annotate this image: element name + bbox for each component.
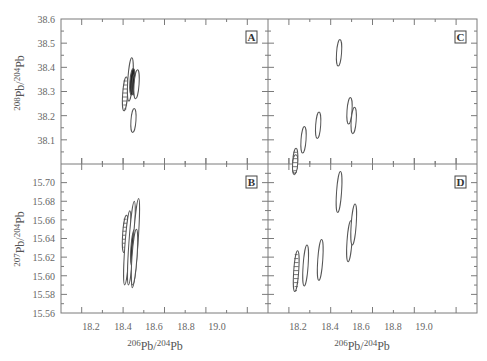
y-tick-label: 38.4 xyxy=(38,62,56,73)
y-tick-label: 15.64 xyxy=(33,233,56,244)
x-tick-label: 18.2 xyxy=(289,321,307,332)
y-tick-label: 38.2 xyxy=(38,111,56,122)
y-tick-label: 15.66 xyxy=(33,215,56,226)
y-axis-title-bottom: 207Pb/204Pb xyxy=(12,211,27,267)
svg-text:B: B xyxy=(248,176,256,188)
y-tick-label: 38.1 xyxy=(38,135,56,146)
svg-text:D: D xyxy=(457,176,465,188)
x-tick-label: 19.0 xyxy=(208,321,226,332)
panel-label-c: C xyxy=(455,31,466,43)
panel-label-b: B xyxy=(246,176,257,188)
y-tick-label: 15.60 xyxy=(33,271,56,282)
x-tick-label: 18.4 xyxy=(114,321,132,332)
x-tick-label: 18.8 xyxy=(177,321,195,332)
error-ellipse xyxy=(315,112,322,139)
x-tick-label: 18.4 xyxy=(321,321,339,332)
x-tick-label: 19.0 xyxy=(415,321,433,332)
panel-label-a: A xyxy=(246,31,257,43)
pb-isotope-chart: ACBD 38.6 38.5 38.4 38.3 38.2 38.1 15.70… xyxy=(0,0,487,361)
error-ellipse xyxy=(300,126,307,153)
x-tick-label: 18.2 xyxy=(82,321,100,332)
panel-label-d: D xyxy=(455,176,466,188)
svg-text:A: A xyxy=(248,31,256,43)
error-ellipse xyxy=(302,245,310,286)
x-tick-labels-right: 18.2 18.4 18.6 18.8 19.0 xyxy=(289,321,433,332)
y-tick-label: 15.56 xyxy=(33,308,56,319)
y-tick-label: 38.5 xyxy=(38,38,56,49)
y-axis-title-top: 208Pb/204Pb xyxy=(12,55,27,111)
x-tick-label: 18.8 xyxy=(384,321,402,332)
y-tick-label: 15.58 xyxy=(33,289,56,300)
error-ellipses xyxy=(121,39,357,291)
svg-text:C: C xyxy=(457,31,465,43)
x-tick-label: 18.6 xyxy=(352,321,370,332)
y-tick-label: 15.68 xyxy=(33,196,56,207)
y-tick-labels-top: 38.6 38.5 38.4 38.3 38.2 38.1 xyxy=(38,14,56,146)
y-tick-labels-bottom: 15.70 15.68 15.66 15.64 15.62 15.60 15.5… xyxy=(33,177,56,319)
error-ellipse xyxy=(350,204,358,245)
error-ellipse xyxy=(335,171,343,212)
error-ellipse xyxy=(130,108,137,132)
x-axis-title-right: 206Pb/204Pb xyxy=(334,338,390,353)
x-axis-title-left: 206Pb/204Pb xyxy=(127,338,183,353)
x-tick-labels-left: 18.2 18.4 18.6 18.8 19.0 xyxy=(82,321,226,332)
error-ellipse xyxy=(292,250,300,291)
error-ellipse xyxy=(316,239,324,280)
y-tick-label: 15.70 xyxy=(33,177,56,188)
y-tick-label: 38.3 xyxy=(38,86,56,97)
error-ellipse xyxy=(336,39,343,66)
y-tick-label: 15.62 xyxy=(33,252,56,263)
x-tick-label: 18.6 xyxy=(145,321,163,332)
y-tick-label: 38.6 xyxy=(38,14,56,25)
